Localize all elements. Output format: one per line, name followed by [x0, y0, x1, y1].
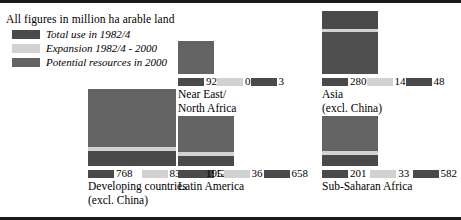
legend: All figures in million ha arable land To… [6, 13, 175, 68]
value-potential-asia: 48 [434, 76, 445, 87]
value-total-use-asia: 280 [350, 76, 367, 87]
legend-item-total-use: Total use in 1982/4 [6, 29, 175, 40]
figure-frame: All figures in million ha arable land To… [0, 0, 461, 220]
value-total-use-developing: 768 [116, 168, 133, 179]
group-sub-saharan: 201 33 582 Sub-Saharan Africa [322, 116, 457, 193]
segment-potential-developing [88, 89, 176, 147]
value-swatch-expansion-near-east [217, 78, 243, 86]
value-swatch-expansion-latin-america [224, 170, 250, 178]
legend-label-potential: Potential resources in 2000 [46, 57, 167, 68]
segment-potential-latin-america [178, 116, 234, 152]
stack-latin-america [178, 116, 234, 166]
value-total-use-near-east: 92 [206, 76, 217, 87]
value-swatch-expansion-sub-saharan [370, 170, 396, 178]
value-expansion-sub-saharan: 33 [398, 168, 409, 179]
legend-item-expansion: Expansion 1982/4 - 2000 [6, 43, 175, 54]
value-swatch-potential-latin-america [264, 170, 290, 178]
value-swatch-total-use-latin-america [178, 170, 204, 178]
figure-canvas: All figures in million ha arable land To… [0, 3, 461, 217]
segment-total-use-asia [322, 11, 378, 29]
value-swatch-total-use-near-east [178, 78, 204, 86]
segment-potential-near-east [178, 41, 214, 74]
segment-potential-asia [322, 32, 378, 74]
legend-label-total-use: Total use in 1982/4 [46, 29, 130, 40]
caption-sub-saharan-line1: Sub-Saharan Africa [322, 180, 457, 193]
segment-total-use-developing [88, 151, 176, 166]
value-potential-latin-america: 658 [292, 168, 309, 179]
value-row-near-east: 92 0 3 [178, 76, 282, 87]
segment-total-use-latin-america [178, 156, 234, 166]
value-swatch-potential-asia [406, 78, 432, 86]
legend-item-potential: Potential resources in 2000 [6, 57, 175, 68]
group-asia: 280 14 48 Asia (excl. China) [322, 11, 442, 114]
value-potential-near-east: 3 [279, 76, 285, 87]
value-row-sub-saharan: 201 33 582 [322, 168, 457, 179]
value-swatch-potential-sub-saharan [413, 170, 439, 178]
value-expansion-asia: 14 [395, 76, 406, 87]
legend-title: All figures in million ha arable land [6, 13, 175, 26]
segment-total-use-sub-saharan [322, 155, 378, 166]
stack-developing [88, 89, 176, 166]
stack-near-east [178, 41, 214, 74]
value-total-use-latin-america: 195 [206, 168, 223, 179]
stack-sub-saharan [322, 116, 378, 166]
value-swatch-total-use-sub-saharan [322, 170, 348, 178]
stack-asia [322, 11, 378, 74]
value-potential-sub-saharan: 582 [441, 168, 458, 179]
legend-swatch-total-use [12, 30, 40, 39]
group-latin-america: 195 36 658 Latin America [178, 116, 308, 193]
value-swatch-expansion-asia [367, 78, 393, 86]
value-row-asia: 280 14 48 [322, 76, 442, 87]
caption-asia-line2: (excl. China) [322, 102, 442, 115]
value-swatch-expansion-developing [142, 170, 168, 178]
caption-developing-line2: (excl. China) [88, 194, 263, 207]
caption-asia-line1: Asia [322, 88, 442, 101]
value-row-latin-america: 195 36 658 [178, 168, 308, 179]
value-swatch-potential-near-east [251, 78, 277, 86]
value-total-use-sub-saharan: 201 [350, 168, 367, 179]
legend-swatch-expansion [12, 44, 40, 53]
segment-potential-sub-saharan [322, 116, 378, 151]
value-swatch-total-use-developing [88, 170, 114, 178]
legend-swatch-potential [12, 58, 40, 67]
caption-latin-america-line1: Latin America [178, 180, 308, 193]
value-expansion-latin-america: 36 [252, 168, 263, 179]
legend-label-expansion: Expansion 1982/4 - 2000 [46, 43, 157, 54]
value-swatch-total-use-asia [322, 78, 348, 86]
